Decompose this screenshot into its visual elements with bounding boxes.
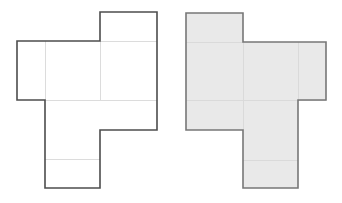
right-cube-net-face-left-lower[interactable] (186, 100, 243, 130)
left-cube-net-face-left[interactable] (17, 41, 45, 100)
cube-nets-illustration (0, 0, 342, 203)
right-cube-net-face-bottom-lower[interactable] (243, 160, 298, 188)
left-cube-net-face-center-right[interactable] (100, 41, 157, 100)
right-cube-net-face-top-left[interactable] (186, 13, 243, 42)
right-cube-net-face-left-upper[interactable] (186, 42, 243, 100)
figure-canvas (0, 0, 342, 203)
right-cube-net-face-center[interactable] (243, 42, 298, 100)
right-cube-net-face-bottom-upper[interactable] (243, 100, 298, 160)
left-cube-net-face-bottom[interactable] (45, 159, 100, 188)
left-cube-net-face-top-right[interactable] (100, 12, 157, 41)
left-cube-net-face-lower[interactable] (45, 100, 100, 159)
left-cube-net-face-center-left[interactable] (45, 41, 100, 100)
right-cube-net-face-right[interactable] (298, 42, 326, 100)
